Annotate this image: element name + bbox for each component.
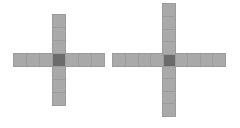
arm-cell-down (52, 66, 66, 80)
arm-cell-up (52, 14, 66, 28)
canvas (0, 0, 240, 128)
arm-cell-right (78, 53, 92, 67)
arm-cell-up (52, 40, 66, 54)
arm-cell-up (162, 28, 176, 42)
center-cell (52, 53, 66, 67)
arm-cell-left (39, 53, 53, 67)
arm-cell-left (112, 53, 126, 67)
arm-cell-left (13, 53, 27, 67)
arm-cell-down (52, 92, 66, 106)
arm-cell-left (26, 53, 40, 67)
arm-cell-right (212, 53, 226, 67)
arm-cell-left (125, 53, 139, 67)
arm-cell-down (52, 79, 66, 93)
arm-cell-left (137, 53, 151, 67)
arm-cell-up (162, 41, 176, 55)
arm-cell-up (52, 27, 66, 41)
arm-cell-up (162, 3, 176, 17)
arm-cell-up (162, 16, 176, 30)
arm-cell-right (91, 53, 105, 67)
arm-cell-down (162, 103, 176, 117)
arm-cell-right (65, 53, 79, 67)
